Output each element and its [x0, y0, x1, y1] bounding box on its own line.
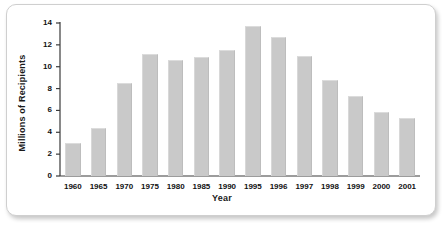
x-tick-label: 2001 [391, 182, 423, 191]
bar [219, 50, 234, 176]
y-tick-label: 14 [32, 18, 52, 27]
bar [117, 83, 132, 176]
y-tick-label: 2 [32, 149, 52, 158]
bar [91, 128, 106, 176]
y-tick-label: 10 [32, 62, 52, 71]
y-tick-label: 12 [32, 40, 52, 49]
bar [399, 118, 414, 176]
y-tick-label: 6 [32, 105, 52, 114]
bar [65, 143, 80, 176]
bar [348, 96, 363, 176]
y-tick-label: 0 [32, 171, 52, 180]
bar [271, 37, 286, 176]
bar [168, 60, 183, 176]
bar [374, 112, 389, 176]
bar [245, 26, 260, 176]
y-tick-label: 4 [32, 127, 52, 136]
bar-chart: Millions of Recipients Year 02468101214 … [7, 5, 437, 217]
chart-card: Millions of Recipients Year 02468101214 … [6, 4, 436, 216]
bar [322, 80, 337, 176]
y-tick-label: 8 [32, 84, 52, 93]
bar [142, 54, 157, 176]
bar [194, 57, 209, 176]
bar [297, 56, 312, 176]
